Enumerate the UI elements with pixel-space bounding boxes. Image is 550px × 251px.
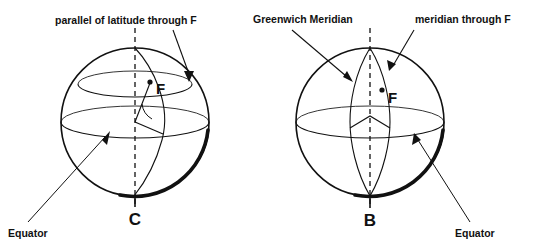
right-point-f-marker	[379, 87, 384, 92]
right-greenwich-meridian-text: Greenwich Meridian	[253, 13, 353, 25]
left-sphere-shadow-limb	[120, 130, 208, 196]
right-greenwich-callout-arrowhead	[343, 71, 353, 82]
right-meridian-through-f-text: meridian through F	[415, 13, 511, 25]
right-meridian-callout-arrowhead	[387, 60, 396, 71]
left-point-f-marker	[147, 79, 152, 84]
right-equator-text: Equator	[455, 227, 495, 239]
left-equator-text: Equator	[8, 227, 48, 239]
left-pole-c-label: C	[129, 210, 141, 229]
right-pole-b-label: B	[364, 211, 376, 230]
figure-canvas: F C parallel of latitude through F Equat…	[0, 0, 550, 251]
left-radius-to-equator	[135, 122, 163, 134]
sphere-diagram-svg: F C parallel of latitude through F Equat…	[0, 0, 550, 251]
left-parallel-of-latitude-text: parallel of latitude through F	[55, 14, 197, 26]
right-sphere-group: F B Greenwich Meridian meridian through …	[253, 13, 511, 239]
right-point-f-label: F	[388, 89, 397, 106]
left-equator-callout-arrowhead	[102, 131, 110, 145]
left-sphere-group: F C parallel of latitude through F Equat…	[8, 14, 209, 239]
left-meridian-through-f	[134, 48, 165, 196]
left-parallel-callout-leader	[173, 30, 189, 74]
right-equator-callout-leader	[418, 140, 470, 222]
right-meridian-callout-leader	[394, 30, 414, 64]
left-point-f-label: F	[156, 80, 165, 97]
right-sphere-shadow-limb	[355, 130, 443, 196]
